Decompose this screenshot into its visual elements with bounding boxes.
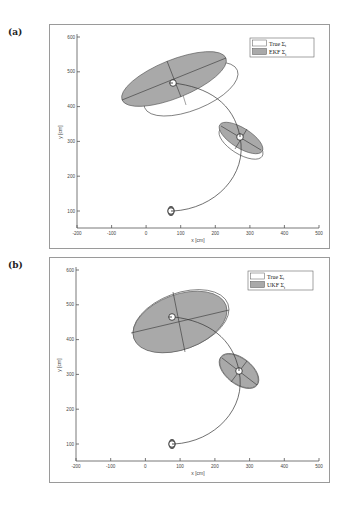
svg-text:400: 400 (281, 231, 289, 236)
svg-text:-100: -100 (106, 464, 116, 469)
svg-text:200: 200 (66, 407, 74, 412)
x-tick-labels-a: -200 -100 0 100 200 300 400 500 (72, 231, 323, 236)
svg-text:100: 100 (176, 464, 184, 469)
panel-label-a: (a) (8, 27, 22, 37)
svg-text:100: 100 (177, 231, 185, 236)
svg-text:0: 0 (145, 231, 148, 236)
y-tick-labels-a: 100 200 300 400 500 600 (67, 35, 75, 214)
svg-text:500: 500 (315, 464, 323, 469)
svg-text:-200: -200 (72, 231, 82, 236)
svg-text:400: 400 (66, 337, 74, 342)
svg-text:400: 400 (67, 104, 75, 109)
svg-text:300: 300 (66, 372, 74, 377)
svg-text:600: 600 (67, 35, 75, 40)
svg-text:100: 100 (66, 442, 74, 447)
legend-a: True Σt EKF Σt (250, 38, 314, 57)
svg-text:0: 0 (144, 464, 147, 469)
plot-b: -200 -100 0 100 200 300 400 500 100 200 … (50, 258, 331, 484)
plot-a: -200 -100 0 100 200 300 400 500 100 200 … (50, 25, 331, 250)
svg-text:200: 200 (211, 231, 219, 236)
legend-swatch-ekf-a (253, 49, 267, 55)
y-tick-labels-b: 100 200 300 400 500 600 (66, 268, 74, 447)
svg-text:300: 300 (67, 139, 75, 144)
figure-b: -200 -100 0 100 200 300 400 500 100 200 … (49, 257, 330, 483)
svg-text:100: 100 (67, 209, 75, 214)
legend-swatch-true-a (253, 40, 267, 46)
figure-a: -200 -100 0 100 200 300 400 500 100 200 … (49, 24, 330, 249)
legend-swatch-ukf-b (251, 282, 265, 288)
svg-text:300: 300 (246, 464, 254, 469)
x-axis-label-b: x [cm] (191, 470, 205, 476)
legend-b: True Σt UKF Σt (248, 271, 313, 290)
x-axis-label-a: x [cm] (191, 237, 205, 243)
x-tick-labels-b: -200 -100 0 100 200 300 400 500 (71, 464, 323, 469)
y-axis-label-b: y [cm] (56, 358, 62, 372)
y-axis-label-a: y [cm] (57, 125, 63, 139)
panel-label-b: (b) (8, 260, 23, 270)
svg-text:200: 200 (211, 464, 219, 469)
svg-text:500: 500 (66, 302, 74, 307)
svg-text:-200: -200 (71, 464, 81, 469)
svg-text:-100: -100 (107, 231, 117, 236)
svg-text:400: 400 (280, 464, 288, 469)
svg-text:200: 200 (67, 174, 75, 179)
svg-text:500: 500 (67, 69, 75, 74)
svg-text:500: 500 (315, 231, 323, 236)
svg-text:300: 300 (246, 231, 254, 236)
svg-text:600: 600 (66, 268, 74, 273)
legend-swatch-true-b (251, 273, 265, 279)
